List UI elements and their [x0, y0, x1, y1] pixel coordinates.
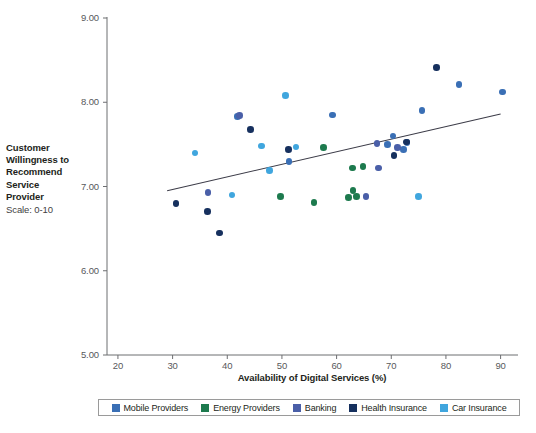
data-point	[456, 81, 463, 88]
data-point	[345, 194, 352, 201]
legend-label: Mobile Providers	[124, 403, 189, 413]
legend-item[interactable]: Mobile Providers	[112, 403, 189, 413]
data-point	[285, 146, 292, 153]
data-point	[173, 200, 180, 207]
data-point	[282, 92, 289, 99]
data-point	[499, 89, 506, 96]
legend-label: Banking	[305, 403, 336, 413]
data-point	[320, 144, 327, 151]
legend-item[interactable]: Health Insurance	[349, 403, 427, 413]
data-point	[394, 144, 401, 151]
data-point	[391, 152, 398, 159]
data-point	[433, 64, 440, 71]
legend-swatch-icon	[293, 404, 301, 412]
data-point	[400, 146, 407, 153]
legend-swatch-icon	[440, 404, 448, 412]
data-point	[205, 189, 212, 196]
data-point	[277, 193, 284, 200]
legend-swatch-icon	[201, 404, 209, 412]
plot-area	[0, 0, 536, 433]
legend-swatch-icon	[349, 404, 357, 412]
data-point	[419, 107, 426, 114]
data-point	[374, 140, 381, 147]
data-point	[329, 112, 336, 119]
data-point	[286, 158, 293, 165]
chart-legend: Mobile ProvidersEnergy ProvidersBankingH…	[98, 399, 520, 416]
legend-label: Health Insurance	[361, 403, 427, 413]
data-point	[349, 165, 356, 172]
data-point	[415, 193, 422, 200]
legend-item[interactable]: Banking	[293, 403, 336, 413]
data-point	[216, 230, 223, 237]
legend-label: Energy Providers	[213, 403, 280, 413]
data-point	[247, 126, 254, 133]
data-point	[236, 112, 243, 119]
data-point	[360, 163, 367, 170]
legend-item[interactable]: Energy Providers	[201, 403, 280, 413]
data-point	[353, 193, 360, 200]
data-point	[204, 208, 211, 215]
legend-label: Car Insurance	[452, 403, 507, 413]
scatter-chart: Customer Willingness to Recommend Servic…	[0, 0, 536, 433]
legend-swatch-icon	[112, 404, 120, 412]
legend-item[interactable]: Car Insurance	[440, 403, 507, 413]
data-point	[384, 141, 391, 148]
data-point	[403, 139, 410, 146]
data-point	[266, 167, 273, 174]
trend-line	[167, 114, 500, 191]
